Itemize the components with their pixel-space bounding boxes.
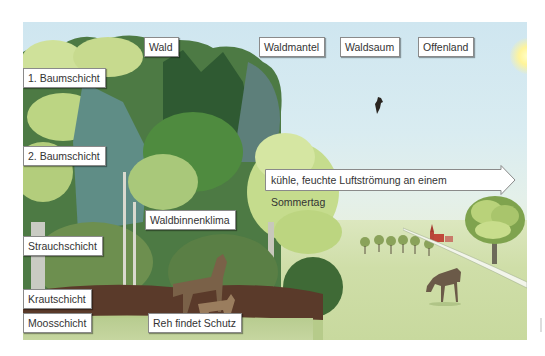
layer-label-moosschicht: Moosschicht bbox=[23, 313, 92, 333]
zone-label-offenland: Offenland bbox=[418, 37, 474, 57]
sun-icon bbox=[510, 38, 527, 74]
page-edge-mark bbox=[540, 318, 542, 332]
zone-label-wald: Wald bbox=[144, 37, 179, 57]
annotation-reh-findet-schutz: Reh findet Schutz bbox=[148, 313, 242, 333]
bird-icon bbox=[372, 96, 386, 116]
annotation-waldbinnenklima: Waldbinnenklima bbox=[145, 210, 236, 230]
zone-label-waldsaum: Waldsaum bbox=[340, 37, 400, 57]
solitary-tree bbox=[463, 190, 527, 272]
layer-label-baumschicht-2: 2. Baumschicht bbox=[23, 146, 106, 166]
airflow-arrow: kühle, feuchte Luftströmung an einem Som… bbox=[265, 169, 501, 191]
layer-label-strauchschicht: Strauchschicht bbox=[23, 236, 103, 256]
deer-icon bbox=[423, 264, 467, 306]
layer-label-krautschicht: Krautschicht bbox=[23, 289, 92, 309]
zone-label-waldmantel: Waldmantel bbox=[259, 37, 325, 57]
layer-label-baumschicht-1: 1. Baumschicht bbox=[23, 68, 106, 88]
